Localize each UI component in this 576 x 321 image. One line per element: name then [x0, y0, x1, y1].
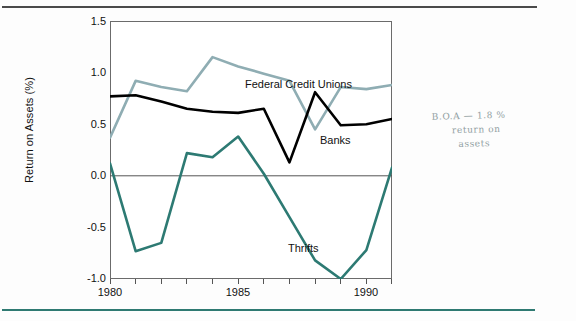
y-tick-label: 0.0 — [72, 169, 106, 181]
series-label-federal-credit-unions: Federal Credit Unions — [245, 78, 352, 90]
plot-lines — [110, 21, 392, 279]
y-tick-label: 1.0 — [72, 66, 106, 78]
x-tick-mark — [263, 279, 264, 284]
handwritten-annotation: B.O.A — 1.8 % return on assets — [431, 106, 562, 151]
x-tick-mark — [238, 279, 239, 284]
y-tick-label: -1.0 — [72, 272, 106, 284]
x-tick-label: 1980 — [85, 286, 135, 298]
series-label-banks: Banks — [320, 134, 351, 146]
x-tick-mark — [212, 279, 213, 284]
x-tick-mark — [110, 279, 111, 284]
y-tick-label: -0.5 — [72, 221, 106, 233]
x-tick-mark — [391, 279, 392, 284]
y-tick-label: 1.5 — [72, 15, 106, 27]
x-tick-mark — [366, 279, 367, 284]
x-tick-mark — [289, 279, 290, 284]
x-tick-mark — [315, 279, 316, 284]
y-axis-title: Return on Assets (%) — [23, 45, 35, 215]
bottom-rule — [2, 309, 535, 311]
series-line-banks — [110, 92, 392, 162]
annotation-line-3: assets — [458, 134, 562, 151]
chart-figure: Return on Assets (%) 1.5 1.0 0.5 0.0 -0.… — [0, 12, 420, 302]
x-tick-mark — [135, 279, 136, 284]
series-line-thrifts — [110, 137, 392, 279]
x-tick-mark — [161, 279, 162, 284]
top-rule — [2, 6, 537, 8]
x-tick-mark — [186, 279, 187, 284]
y-axis-ticks: 1.5 1.0 0.5 0.0 -0.5 -1.0 — [62, 12, 106, 302]
y-tick-label: 0.5 — [72, 118, 106, 130]
series-label-thrifts: Thrifts — [288, 242, 319, 254]
x-tick-label: 1990 — [341, 286, 391, 298]
page-canvas: Return on Assets (%) 1.5 1.0 0.5 0.0 -0.… — [0, 0, 576, 321]
x-tick-mark — [340, 279, 341, 284]
x-tick-label: 1985 — [213, 286, 263, 298]
